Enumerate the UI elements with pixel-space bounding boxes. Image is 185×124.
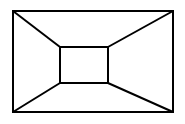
inner-rectangle bbox=[60, 47, 108, 83]
connector-top-left bbox=[13, 11, 60, 47]
perspective-box-diagram bbox=[0, 0, 185, 124]
diagram-canvas bbox=[0, 0, 185, 124]
connector-bottom-left bbox=[13, 83, 60, 112]
connector-top-right bbox=[108, 11, 173, 47]
connector-bottom-right bbox=[108, 83, 173, 112]
